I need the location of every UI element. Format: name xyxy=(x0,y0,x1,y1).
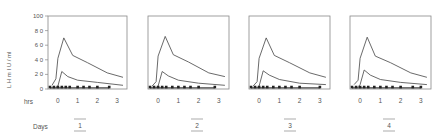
data-marker xyxy=(363,86,366,89)
panel-day-3: 01233 xyxy=(249,16,330,131)
data-marker xyxy=(367,86,370,89)
day-number-label: 4 xyxy=(387,122,391,129)
x-tick-label: 2 xyxy=(197,97,201,104)
x-tick-label: 1 xyxy=(76,97,80,104)
data-marker xyxy=(165,86,168,89)
y-tick-label: 0 xyxy=(40,86,44,92)
data-marker xyxy=(385,86,388,89)
data-marker xyxy=(49,86,52,89)
data-marker xyxy=(157,86,160,89)
series-upper-line xyxy=(253,38,326,86)
data-marker xyxy=(379,86,382,89)
data-marker xyxy=(298,86,301,89)
panels: 02 04 06 08 010001231012320123301234 xyxy=(33,13,431,131)
data-marker xyxy=(420,86,423,89)
y-tick-label: 4 0 xyxy=(35,57,44,63)
data-marker xyxy=(61,86,64,89)
data-marker xyxy=(214,86,217,89)
panel-day-2: 01232 xyxy=(148,16,229,131)
days-label: Days xyxy=(33,123,49,131)
data-marker xyxy=(197,86,200,89)
y-tick-label: 2 0 xyxy=(35,71,44,77)
data-marker xyxy=(57,86,60,89)
x-tick-label: 2 xyxy=(298,97,302,104)
x-tick-label: 2 xyxy=(399,97,403,104)
x-tick-label: 0 xyxy=(156,97,160,104)
data-marker xyxy=(254,86,257,89)
x-tick-label: 3 xyxy=(217,97,221,104)
data-marker xyxy=(76,86,79,89)
series-lower-line xyxy=(358,70,427,87)
chart-canvas: L H m I U / ml hrs Days 02 04 06 08 0100… xyxy=(0,0,442,140)
data-marker xyxy=(359,86,362,89)
data-marker xyxy=(183,86,186,89)
series-upper-line xyxy=(152,36,225,86)
data-marker xyxy=(373,86,376,89)
data-marker xyxy=(68,86,71,89)
data-marker xyxy=(177,86,180,89)
data-marker xyxy=(153,86,156,89)
data-marker xyxy=(108,86,111,89)
series-upper-line xyxy=(52,38,123,85)
x-tick-label: 0 xyxy=(56,97,60,104)
data-marker xyxy=(53,86,56,89)
x-tick-label: 0 xyxy=(257,97,261,104)
y-tick-label: 100 xyxy=(33,13,44,19)
y-tick-label: 8 0 xyxy=(35,28,44,34)
day-number-label: 2 xyxy=(195,122,199,129)
data-marker xyxy=(272,86,275,89)
data-marker xyxy=(290,86,293,89)
data-marker xyxy=(82,86,85,89)
x-axis-label-hrs: hrs xyxy=(24,98,34,105)
data-marker xyxy=(189,86,192,89)
data-marker xyxy=(399,86,402,89)
series-lower-line xyxy=(257,71,326,88)
data-marker xyxy=(250,86,253,89)
data-marker xyxy=(161,86,164,89)
panel-day-4: 01234 xyxy=(350,16,431,131)
x-tick-label: 3 xyxy=(115,97,119,104)
data-marker xyxy=(351,86,354,89)
x-tick-label: 1 xyxy=(379,97,383,104)
y-tick-label: 6 0 xyxy=(35,42,44,48)
series-lower-line xyxy=(56,72,123,88)
data-marker xyxy=(171,86,174,89)
panel-day-1: 02 04 06 08 010001231 xyxy=(33,13,127,131)
x-tick-label: 2 xyxy=(96,97,100,104)
data-marker xyxy=(391,86,394,89)
lh-chart-figure: L H m I U / ml hrs Days 02 04 06 08 0100… xyxy=(0,0,442,140)
y-axis-label: L H m I U / ml xyxy=(6,52,12,88)
x-tick-label: 3 xyxy=(419,97,423,104)
x-tick-label: 1 xyxy=(177,97,181,104)
day-number-label: 3 xyxy=(288,122,292,129)
data-marker xyxy=(411,86,414,89)
x-tick-label: 1 xyxy=(278,97,282,104)
x-tick-label: 3 xyxy=(318,97,322,104)
data-marker xyxy=(88,86,91,89)
data-marker xyxy=(278,86,281,89)
data-marker xyxy=(284,86,287,89)
series-upper-line xyxy=(354,37,427,84)
data-marker xyxy=(262,86,265,89)
day-number-label: 1 xyxy=(78,122,82,129)
data-marker xyxy=(258,86,261,89)
data-marker xyxy=(64,86,67,89)
data-marker xyxy=(96,86,99,89)
data-marker xyxy=(355,86,358,89)
data-marker xyxy=(319,86,322,89)
data-marker xyxy=(149,86,152,89)
x-tick-label: 0 xyxy=(358,97,362,104)
data-marker xyxy=(266,86,269,89)
